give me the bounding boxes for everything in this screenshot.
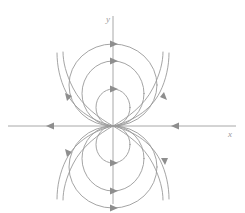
y-axis-label: y [105,14,110,24]
arrow-inner-loop-upper-top [110,86,118,93]
open-curve-lower-right-outer [113,126,163,200]
arrow-outer-loop-upper-top [110,41,118,48]
phase-portrait-figure: y x [0,0,245,213]
open-curve-lower-left [57,126,113,199]
open-curve-lower-right [113,126,169,199]
arrow-x-axis-right [171,123,179,130]
arrow-outer-loop-lower-bottom [110,205,118,212]
arrow-open-curve-upper-right [160,92,167,100]
arrow-x-axis-left [46,123,54,130]
arrow-inner-loop-lower-bottom [110,160,118,167]
arrow-middle-loop-lower-bottom [110,188,118,195]
open-curve-upper-left-outer [63,52,113,126]
x-axis-label: x [227,129,232,139]
open-curve-upper-right-outer [113,52,163,126]
axes-group [8,16,236,204]
open-curve-lower-left-outer [63,126,113,200]
arrow-middle-loop-upper-top [110,58,118,65]
open-curve-upper-left [57,53,113,126]
open-curve-upper-right [113,53,169,126]
phase-portrait-canvas: y x [0,0,245,213]
